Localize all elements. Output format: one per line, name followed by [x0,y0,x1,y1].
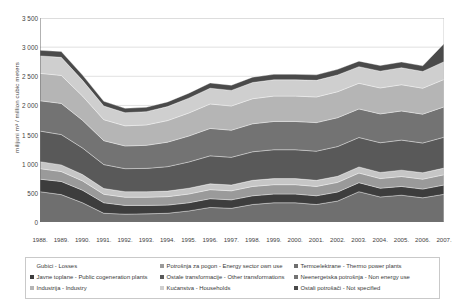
x-axis-tick: 1994. [160,236,175,243]
x-axis-tick: 1997. [224,236,239,243]
legend-item[interactable]: Javne toplane - Public cogeneration plan… [30,271,148,282]
legend-item[interactable]: Termoelektrane - Thermo power plants [294,260,410,271]
legend-label: Potrošnja za pogon - Energy sector own u… [167,263,283,269]
x-axis-tick: 1990. [75,236,90,243]
y-axis-tick: 1 500 [4,131,38,138]
x-axis-tick: 1993. [139,236,154,243]
x-axis-tick: 1998. [245,236,260,243]
y-axis-tick: 2 500 [4,73,38,80]
y-axis-tick-labels: 05001 0001 5002 0002 5003 0003 500 [0,0,38,252]
legend-column: Termoelektrane - Thermo power plantsNeen… [294,260,410,293]
legend-item[interactable]: Industrija - Industry [30,282,148,293]
legend-item[interactable]: Ostali potrošači - Not specified [294,282,410,293]
x-axis-tick: 2002. [330,236,345,243]
chart-legend: Gubici - LossesJavne toplane - Public co… [25,257,440,299]
legend-swatch [294,264,298,268]
legend-swatch [294,286,298,290]
legend-label: Ostali potrošači - Not specified [301,285,381,291]
legend-item[interactable]: Gubici - Losses [30,260,148,271]
legend-swatch [160,275,164,279]
x-axis-tick: 2004. [373,236,388,243]
legend-swatch [30,275,34,279]
legend-swatch [294,275,298,279]
legend-item[interactable]: Kućanstva - Households [160,282,284,293]
x-axis-tick: 2003. [351,236,366,243]
legend-swatch [30,264,34,268]
legend-label: Industrija - Industry [37,285,87,291]
x-axis-tick: 2001. [309,236,324,243]
x-axis-tick: 2007. [436,236,451,243]
x-axis-tick: 1999. [266,236,281,243]
x-axis-tick: 2005. [394,236,409,243]
y-axis-tick: 1 000 [4,160,38,167]
y-axis-tick: 3 500 [4,15,38,22]
x-axis-tick: 2006. [415,236,430,243]
legend-label: Ostale transformacije - Other transforma… [167,274,285,280]
legend-swatch [160,264,164,268]
legend-column: Potrošnja za pogon - Energy sector own u… [160,260,284,293]
legend-swatch [30,286,34,290]
legend-column: Gubici - LossesJavne toplane - Public co… [30,260,148,293]
x-axis-tick: 1996. [202,236,217,243]
legend-item[interactable]: Potrošnja za pogon - Energy sector own u… [160,260,284,271]
stacked-area-chart: milijuni m³ / million cubic meters 05001… [0,0,448,252]
legend-item[interactable]: Neenergetska potrošnja - Non energy use [294,271,410,282]
legend-label: Neenergetska potrošnja - Non energy use [301,274,410,280]
legend-label: Kućanstva - Households [167,285,231,291]
legend-label: Termoelektrane - Thermo power plants [301,263,402,269]
x-axis-tick: 1992. [117,236,132,243]
x-axis-tick: 1991. [96,236,111,243]
x-axis-tick: 1988. [32,236,47,243]
legend-label: Gubici - Losses [37,263,78,269]
legend-label: Javne toplane - Public cogeneration plan… [37,274,148,280]
legend-item[interactable]: Ostale transformacije - Other transforma… [160,271,284,282]
x-axis-tick: 2000. [288,236,303,243]
y-axis-tick: 500 [4,189,38,196]
legend-swatch [160,286,164,290]
plot-canvas [40,18,444,222]
y-axis-tick: 2 000 [4,102,38,109]
x-axis-tick: 1989. [54,236,69,243]
y-axis-tick: 0 [4,219,38,226]
y-axis-tick: 3 000 [4,44,38,51]
x-axis-tick: 1995. [181,236,196,243]
